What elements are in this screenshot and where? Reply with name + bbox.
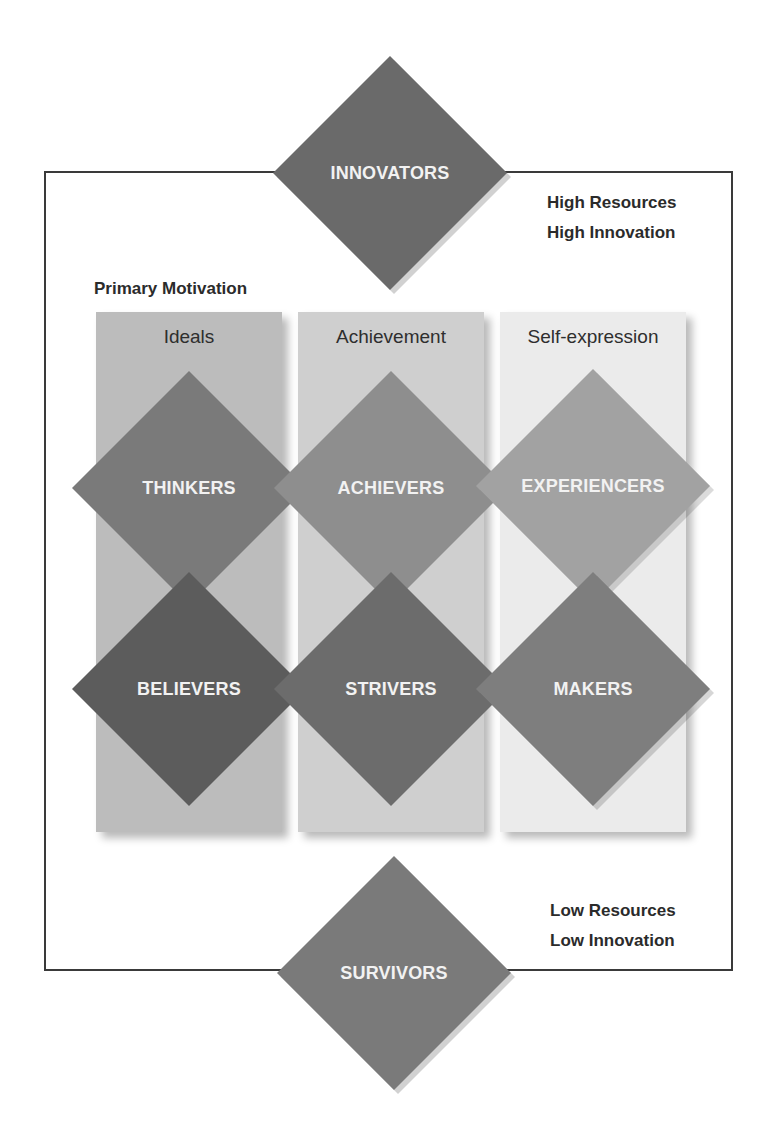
primary-motivation-heading: Primary Motivation <box>94 279 247 299</box>
segment-believers: BELIEVERS <box>72 572 306 806</box>
segment-strivers: STRIVERS <box>274 572 508 806</box>
segment-achievers: ACHIEVERS <box>274 371 508 605</box>
high-resources-label: High Resources <box>547 188 676 218</box>
segment-label-strivers: STRIVERS <box>274 572 508 806</box>
segment-label-makers: MAKERS <box>476 572 710 806</box>
segment-label-believers: BELIEVERS <box>72 572 306 806</box>
segment-label-experiencers: EXPERIENCERS <box>476 369 710 603</box>
segment-label-achievers: ACHIEVERS <box>274 371 508 605</box>
segment-thinkers: THINKERS <box>72 371 306 605</box>
low-resources-note: Low Resources Low Innovation <box>550 896 676 956</box>
low-innovation-label: Low Innovation <box>550 926 676 956</box>
segment-label-survivors: SURVIVORS <box>277 856 511 1090</box>
high-innovation-label: High Innovation <box>547 218 676 248</box>
column-label-self-expression: Self-expression <box>500 326 686 348</box>
low-resources-label: Low Resources <box>550 896 676 926</box>
segment-innovators: INNOVATORS <box>273 56 507 290</box>
segment-label-innovators: INNOVATORS <box>273 56 507 290</box>
column-label-ideals: Ideals <box>96 326 282 348</box>
segment-experiencers: EXPERIENCERS <box>476 369 710 603</box>
segment-label-thinkers: THINKERS <box>72 371 306 605</box>
high-resources-note: High Resources High Innovation <box>547 188 676 248</box>
segment-makers: MAKERS <box>476 572 710 806</box>
column-label-achievement: Achievement <box>298 326 484 348</box>
segment-survivors: SURVIVORS <box>277 856 511 1090</box>
